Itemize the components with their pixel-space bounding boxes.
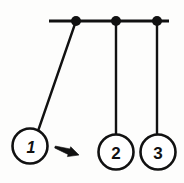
pivot-dot-2 [111, 16, 121, 26]
ball-label-2: 2 [111, 144, 120, 163]
pendulum-diagram: 1 2 3 [0, 0, 184, 183]
pivot-dot-3 [152, 16, 162, 26]
diagram-canvas: 1 2 3 [0, 0, 184, 183]
ball-label-3: 3 [153, 144, 162, 163]
pivot-dot-1 [71, 16, 81, 26]
ball-label-1: 1 [27, 139, 36, 156]
